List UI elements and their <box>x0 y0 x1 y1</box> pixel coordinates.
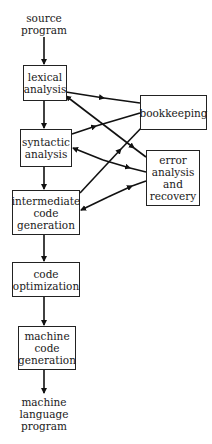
node-bookkeeping: bookkeeping <box>140 95 207 130</box>
source-program-label: source program <box>14 12 74 36</box>
node-code-optimization: code optimization <box>12 262 80 297</box>
node-machine-code-generation: machine code generation <box>18 326 76 370</box>
node-intermediate-code-generation: intermediate code generation <box>12 190 80 235</box>
node-syntactic-analysis: syntactic analysis <box>20 129 72 167</box>
node-error-analysis-recovery: error analysis and recovery <box>146 150 200 206</box>
machine-language-program-label: machine language program <box>14 396 74 432</box>
node-lexical-analysis: lexical analysis <box>23 65 67 101</box>
